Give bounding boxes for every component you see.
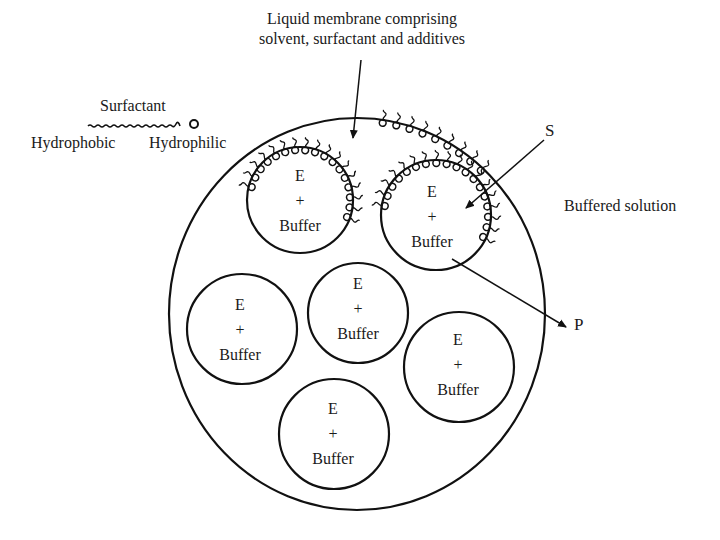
surfactant-molecule-icon	[328, 150, 344, 167]
surfactant-molecule-icon	[379, 110, 388, 127]
buffer-label: Buffer	[428, 380, 488, 400]
droplet-6-contents: E + Buffer	[303, 399, 363, 469]
surfactant-molecule-icon	[476, 159, 492, 176]
membrane-label-line1: Liquid membrane comprising	[250, 9, 474, 29]
droplet-5-contents: E + Buffer	[428, 330, 488, 400]
surfactant-molecule-icon	[371, 200, 388, 210]
legend-hydrophobic-label: Hydrophobic	[31, 134, 115, 152]
surfactant-molecule-icon	[257, 150, 273, 167]
legend-surfactant-title: Surfactant	[100, 97, 166, 115]
plus-sign: +	[303, 424, 363, 444]
enzyme-label: E	[210, 295, 270, 315]
surfactant-legend-molecule-icon	[88, 120, 198, 128]
enzyme-label: E	[328, 274, 388, 294]
surfactant-molecule-icon	[483, 201, 500, 210]
legend-hydrophilic-label: Hydrophilic	[149, 134, 226, 152]
droplet-4-contents: E + Buffer	[328, 274, 388, 344]
surfactant-molecule-icon	[433, 150, 440, 166]
buffer-label: Buffer	[402, 232, 462, 252]
surfactant-molecule-icon	[290, 137, 298, 154]
product-label: P	[574, 315, 583, 335]
plus-sign: +	[428, 355, 488, 375]
droplet-1-contents: E + Buffer	[270, 166, 330, 236]
surfactant-molecule-icon	[483, 223, 501, 233]
membrane-pointer-arrow	[353, 60, 361, 138]
enzyme-label: E	[303, 399, 363, 419]
membrane-label-line2: solvent, surfactant and additives	[250, 29, 474, 49]
buffer-label: Buffer	[210, 345, 270, 365]
plus-sign: +	[210, 320, 270, 340]
enzyme-label: E	[402, 182, 462, 202]
buffer-label: Buffer	[328, 324, 388, 344]
plus-sign: +	[328, 299, 388, 319]
surfactant-molecule-icon	[484, 213, 501, 220]
surfactant-molecule-icon	[443, 151, 453, 168]
plus-sign: +	[402, 207, 462, 227]
substrate-arrow	[466, 140, 544, 208]
membrane-label: Liquid membrane comprising solvent, surf…	[250, 9, 474, 49]
substrate-label: S	[545, 121, 554, 141]
droplet-2-contents: E + Buffer	[402, 182, 462, 252]
surfactant-molecule-icon	[346, 193, 363, 201]
surfactant-molecule-icon	[420, 151, 430, 168]
surfactant-molecule-icon	[387, 167, 403, 183]
droplet-3-contents: E + Buffer	[210, 295, 270, 365]
surfactant-molecule-icon	[301, 137, 309, 154]
buffer-label: Buffer	[270, 216, 330, 236]
plus-sign: +	[270, 191, 330, 211]
buffer-label: Buffer	[303, 449, 363, 469]
enzyme-label: E	[428, 330, 488, 350]
surfactant-molecule-icon	[346, 203, 363, 212]
product-arrow	[452, 259, 566, 327]
enzyme-label: E	[270, 166, 330, 186]
buffered-solution-label: Buffered solution	[564, 197, 676, 215]
diagram-canvas: Liquid membrane comprising solvent, surf…	[0, 0, 720, 540]
